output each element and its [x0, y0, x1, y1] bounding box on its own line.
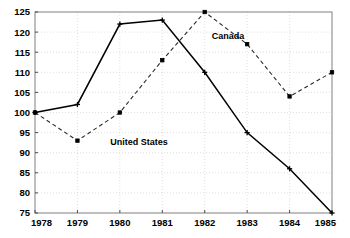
y-axis-tick-label: 110: [15, 67, 30, 78]
data-point-marker: [245, 42, 248, 45]
line-chart: 7580859095100105110115120125 19781979198…: [0, 0, 350, 238]
y-axis-tick-label: 80: [19, 187, 30, 198]
x-axis-tick-labels: 19781979198019811982198319841985: [31, 217, 337, 228]
chart-screenshot: 7580859095100105110115120125 19781979198…: [0, 0, 350, 238]
y-axis-tick-label: 105: [14, 87, 31, 98]
series-annotation-label: Canada: [212, 31, 246, 41]
x-axis-tick-label: 1980: [109, 217, 130, 228]
data-point-marker: [330, 71, 333, 74]
x-axis-tick-label: 1978: [31, 217, 52, 228]
data-point-marker: [76, 139, 79, 142]
y-axis-tick-label: 125: [14, 6, 31, 17]
y-axis-tick-label: 120: [14, 27, 30, 38]
data-point-marker: [161, 59, 164, 62]
x-axis-tick-label: 1979: [67, 217, 88, 228]
x-axis-tick-label: 1984: [279, 217, 301, 228]
x-axis-tick-label: 1985: [315, 217, 337, 228]
series-canada: [33, 10, 333, 142]
data-point-marker: [118, 111, 121, 114]
y-axis-tick-label: 100: [14, 107, 30, 118]
y-axis-tick-label: 115: [15, 47, 31, 58]
series-line: [35, 12, 332, 141]
y-axis-tick-label: 75: [19, 207, 30, 218]
y-axis-tick-label: 85: [19, 167, 30, 178]
x-axis-tick-label: 1981: [152, 217, 174, 228]
x-axis-tick-label: 1982: [194, 217, 215, 228]
y-axis-tick-labels: 7580859095100105110115120125: [14, 6, 31, 218]
series-annotations: CanadaUnited States: [110, 31, 245, 146]
data-point-marker: [203, 10, 206, 13]
series-annotation-label: United States: [110, 137, 168, 147]
series-united-states: [32, 17, 334, 215]
data-point-marker: [288, 95, 291, 98]
y-axis-tick-label: 90: [19, 147, 30, 158]
series-line: [35, 20, 332, 213]
y-axis-tick-label: 95: [19, 127, 30, 138]
x-axis-tick-label: 1983: [237, 217, 258, 228]
